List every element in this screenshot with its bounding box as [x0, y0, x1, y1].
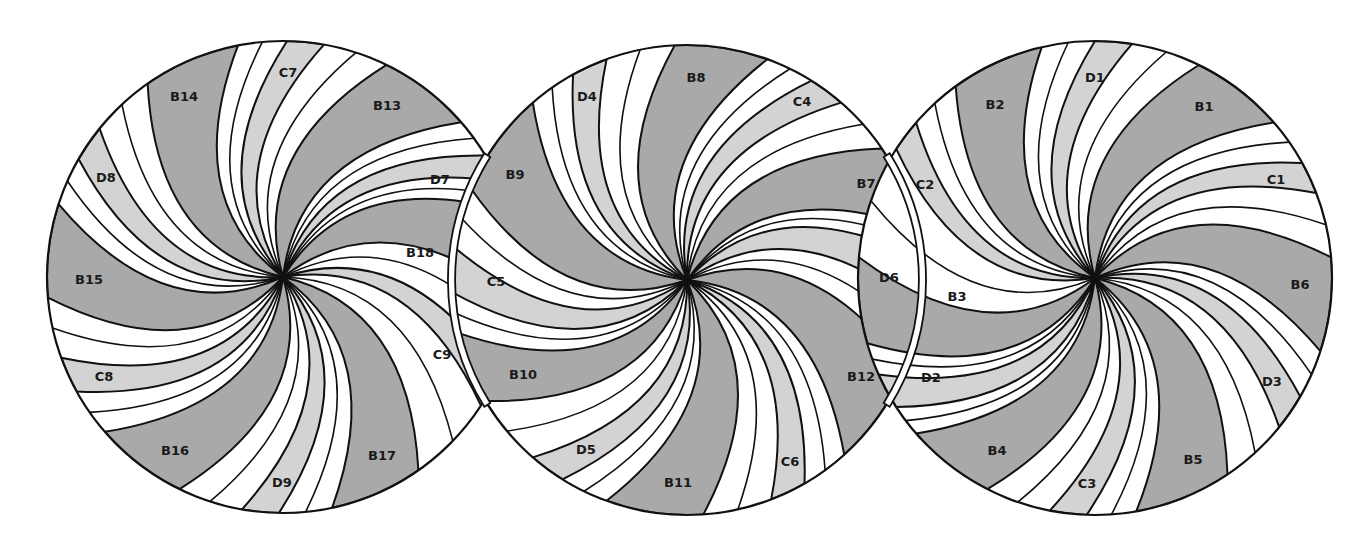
segment-label: D8 [96, 170, 116, 185]
segment-label: B18 [406, 245, 434, 260]
segment-label: B14 [170, 89, 198, 104]
segment-label: D5 [576, 442, 596, 457]
segment-label: B3 [948, 289, 967, 304]
segment-label: B6 [1291, 277, 1310, 292]
segment-label: C1 [1267, 172, 1286, 187]
segment-label: B16 [161, 443, 189, 458]
segment-label: B5 [1184, 452, 1203, 467]
segment-label: B12 [847, 369, 875, 384]
segment-label: B1 [1195, 99, 1214, 114]
segment-label: B13 [373, 98, 401, 113]
segment-label: B15 [75, 272, 103, 287]
segment-label: B4 [988, 443, 1007, 458]
segment-label: B8 [687, 70, 706, 85]
segment-label: C7 [279, 65, 298, 80]
segment-label: B10 [509, 367, 537, 382]
segment-label: C5 [487, 274, 506, 289]
segment-label: C8 [95, 369, 114, 384]
segment-label: B11 [664, 475, 692, 490]
segment-label: D1 [1085, 70, 1105, 85]
segment-label: D9 [272, 475, 292, 490]
segment-label: C3 [1078, 476, 1097, 491]
segment-label: D6 [879, 270, 899, 285]
segment-label: B2 [986, 97, 1005, 112]
segment-label: D7 [430, 172, 450, 187]
segment-label: C9 [433, 347, 452, 362]
segment-label: D3 [1262, 374, 1282, 389]
segment-label: B7 [857, 176, 876, 191]
segment-label: C4 [793, 94, 812, 109]
swirl-block-middle [452, 45, 922, 515]
segment-label: B9 [506, 167, 525, 182]
quilt-swirl-diagram: C7B13D7B18C9B17D9B16C8B15D8B14B8C4B7D6B1… [0, 0, 1370, 548]
segment-label: C6 [781, 454, 800, 469]
swirl-block-right [858, 41, 1332, 515]
segment-label: D2 [921, 370, 941, 385]
segment-label: B17 [368, 448, 396, 463]
segment-label: D4 [577, 89, 597, 104]
segment-label: C2 [916, 177, 935, 192]
